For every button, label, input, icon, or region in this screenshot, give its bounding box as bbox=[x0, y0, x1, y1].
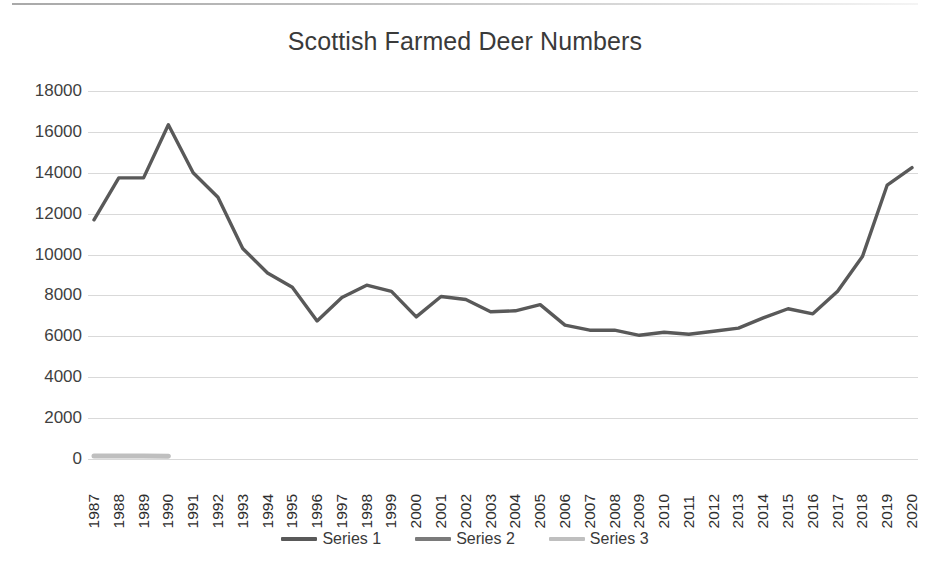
x-axis-tick-label: 2013 bbox=[730, 494, 746, 528]
legend-item[interactable]: Series 2 bbox=[415, 530, 515, 548]
x-axis-tick-label: 2017 bbox=[830, 494, 846, 528]
x-axis-tick-label: 2008 bbox=[607, 494, 623, 528]
legend-swatch-icon bbox=[281, 537, 317, 541]
x-axis-labels: 1987198819891990199119921993199419951996… bbox=[88, 466, 918, 528]
y-axis-tick-label: 12000 bbox=[6, 204, 82, 224]
x-axis-tick-label: 1989 bbox=[136, 494, 152, 528]
x-axis-tick-label: 2016 bbox=[805, 494, 821, 528]
y-axis-labels: 1800016000140001200010000800060004000200… bbox=[0, 91, 82, 459]
legend-swatch-icon bbox=[415, 537, 451, 541]
x-axis-tick-label: 2005 bbox=[532, 494, 548, 528]
x-axis-tick-label: 1990 bbox=[160, 494, 176, 528]
x-axis-tick-label: 2014 bbox=[755, 494, 771, 528]
y-axis-tick-label: 6000 bbox=[6, 326, 82, 346]
x-axis-tick-label: 1988 bbox=[111, 494, 127, 528]
x-axis-tick-label: 1996 bbox=[309, 494, 325, 528]
x-axis-tick-label: 1991 bbox=[185, 494, 201, 528]
x-axis-tick-label: 2012 bbox=[706, 494, 722, 528]
series-lines bbox=[88, 91, 918, 459]
x-axis-tick-label: 2007 bbox=[582, 494, 598, 528]
chart-container: Scottish Farmed Deer Numbers 18000160001… bbox=[0, 0, 930, 577]
scan-artifact-line bbox=[12, 3, 918, 5]
x-axis-tick-label: 2010 bbox=[656, 494, 672, 528]
x-axis-tick-label: 2018 bbox=[854, 494, 870, 528]
y-axis-tick-label: 2000 bbox=[6, 408, 82, 428]
x-axis-tick-label: 1999 bbox=[383, 494, 399, 528]
x-axis-tick-label: 2011 bbox=[681, 495, 697, 528]
x-axis-tick-label: 2009 bbox=[631, 494, 647, 528]
x-axis-tick-label: 1995 bbox=[284, 494, 300, 528]
x-axis-tick-label: 2019 bbox=[879, 494, 895, 528]
legend-item[interactable]: Series 1 bbox=[281, 530, 381, 548]
x-axis-tick-label: 1993 bbox=[235, 494, 251, 528]
y-axis-tick-label: 10000 bbox=[6, 245, 82, 265]
x-axis-tick-label: 1992 bbox=[210, 494, 226, 528]
legend-swatch-icon bbox=[549, 537, 585, 541]
y-axis-tick-label: 16000 bbox=[6, 122, 82, 142]
plot-area bbox=[88, 91, 918, 459]
y-axis-tick-label: 8000 bbox=[6, 285, 82, 305]
series-line bbox=[94, 125, 912, 336]
legend-label: Series 3 bbox=[590, 530, 649, 548]
x-axis-tick-label: 2000 bbox=[408, 494, 424, 528]
x-axis-tick-label: 1987 bbox=[86, 494, 102, 528]
gridline bbox=[88, 459, 918, 460]
y-axis-tick-label: 4000 bbox=[6, 367, 82, 387]
x-axis-tick-label: 1994 bbox=[260, 494, 276, 528]
x-axis-tick-label: 2020 bbox=[904, 494, 920, 528]
x-axis-tick-label: 1997 bbox=[334, 494, 350, 528]
chart-title: Scottish Farmed Deer Numbers bbox=[0, 27, 930, 56]
legend-item[interactable]: Series 3 bbox=[549, 530, 649, 548]
x-axis-tick-label: 2004 bbox=[507, 494, 523, 528]
x-axis-tick-label: 2002 bbox=[458, 494, 474, 528]
x-axis-tick-label: 2015 bbox=[780, 494, 796, 528]
x-axis-tick-label: 2003 bbox=[483, 494, 499, 528]
x-axis-tick-label: 2006 bbox=[557, 494, 573, 528]
x-axis-tick-label: 2001 bbox=[433, 494, 449, 528]
y-axis-tick-label: 18000 bbox=[6, 81, 82, 101]
chart-legend: Series 1Series 2Series 3 bbox=[0, 530, 930, 548]
x-axis-tick-label: 1998 bbox=[359, 494, 375, 528]
legend-label: Series 2 bbox=[456, 530, 515, 548]
y-axis-tick-label: 0 bbox=[6, 449, 82, 469]
y-axis-tick-label: 14000 bbox=[6, 163, 82, 183]
legend-label: Series 1 bbox=[322, 530, 381, 548]
